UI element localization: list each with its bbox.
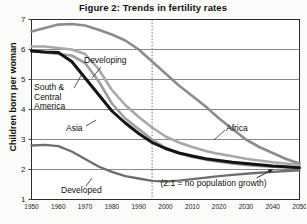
x-tick-label: 1980 bbox=[97, 203, 127, 211]
x-tick-label: 2000 bbox=[151, 203, 181, 211]
y-tick-label: 7 bbox=[12, 16, 26, 24]
x-tick-label: 1960 bbox=[43, 203, 73, 211]
y-tick-label: 5 bbox=[12, 76, 26, 84]
y-tick-label: 4 bbox=[12, 106, 26, 114]
replacement-level-note: (2.1 = no population growth) bbox=[161, 178, 267, 188]
x-tick-label: 1970 bbox=[70, 203, 100, 211]
figure-container: Figure 2: Trends in fertility rates Chil… bbox=[0, 0, 306, 224]
chart-plot bbox=[0, 0, 306, 224]
y-tick-label: 6 bbox=[12, 46, 26, 54]
x-tick-label: 2020 bbox=[204, 203, 234, 211]
y-tick-label: 3 bbox=[12, 136, 26, 144]
series-label-developing: Developing bbox=[84, 56, 127, 66]
series-label-africa: Africa bbox=[226, 124, 248, 134]
x-tick-label: 2050 bbox=[285, 203, 307, 211]
x-tick-label: 2010 bbox=[177, 203, 207, 211]
y-tick-label: 2 bbox=[12, 166, 26, 174]
x-tick-label: 2030 bbox=[231, 203, 261, 211]
series-label-south-central-america: South & Central America bbox=[34, 83, 65, 112]
series-label-asia: Asia bbox=[66, 124, 83, 134]
x-tick-label: 1950 bbox=[17, 203, 47, 211]
x-tick-label: 2040 bbox=[258, 203, 288, 211]
x-tick-label: 1990 bbox=[124, 203, 154, 211]
series-label-developed: Developed bbox=[61, 186, 102, 196]
